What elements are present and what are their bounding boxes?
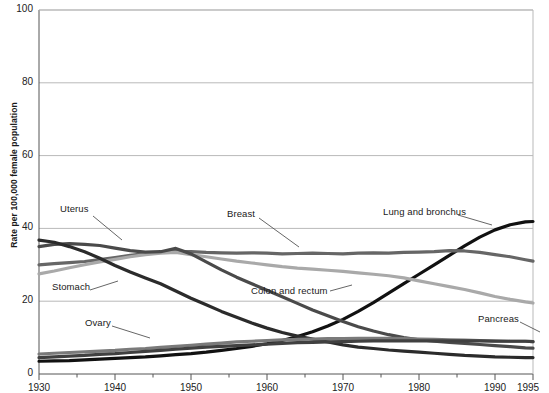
series-label-stomach: Stomach	[52, 281, 90, 292]
series-line-breast	[39, 251, 533, 265]
leader-line-colon-and-rectum	[330, 285, 352, 291]
leader-line-stomach	[90, 281, 118, 290]
series-label-colon-and-rectum: Colon and rectum	[251, 285, 328, 296]
y-tick-label-20: 20	[5, 294, 33, 305]
y-tick-label-80: 80	[5, 76, 33, 87]
leader-line-pancreas	[520, 322, 540, 332]
x-tick-label-1980: 1980	[399, 382, 439, 393]
series-label-lung-and-bronchus: Lung and bronchus	[383, 206, 466, 217]
x-tick-label-1995: 1995	[508, 382, 548, 393]
y-tick-label-0: 0	[5, 367, 33, 378]
leader-line-ovary	[112, 326, 150, 338]
series-label-uterus: Uterus	[60, 203, 89, 214]
y-tick-label-100: 100	[5, 3, 33, 14]
x-tick-label-1970: 1970	[323, 382, 363, 393]
series-label-ovary: Ovary	[85, 317, 111, 328]
x-tick-label-1930: 1930	[19, 382, 59, 393]
x-tick-label-1950: 1950	[171, 382, 211, 393]
x-tick-label-1960: 1960	[247, 382, 287, 393]
y-tick-label-40: 40	[5, 221, 33, 232]
leader-line-breast	[259, 218, 299, 247]
x-axis-ticks	[39, 374, 533, 380]
axis-lines	[39, 10, 533, 374]
series-label-breast: Breast	[227, 208, 255, 219]
annotation-leader-lines	[90, 215, 540, 338]
y-tick-label-60: 60	[5, 149, 33, 160]
x-tick-label-1940: 1940	[95, 382, 135, 393]
series-label-pancreas: Pancreas	[478, 313, 519, 324]
